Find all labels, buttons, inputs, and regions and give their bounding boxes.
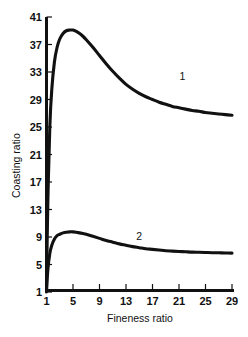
x-tick-label: 5 (70, 295, 76, 307)
y-tick-label: 13 (30, 204, 42, 216)
y-tick-label: 1 (36, 286, 42, 298)
x-axis-title: Fineness ratio (107, 312, 173, 324)
y-tick-label: 33 (30, 66, 42, 78)
y-tick-label: 5 (36, 259, 42, 271)
y-tick-label: 9 (36, 231, 42, 243)
x-tick-label: 17 (146, 295, 158, 307)
curve-label-1: 1 (179, 70, 185, 82)
y-tick-label: 37 (30, 39, 42, 51)
curve-label-2: 2 (136, 230, 142, 242)
y-tick-label: 21 (30, 149, 42, 161)
coasting-ratio-vs-fineness-ratio-chart: 1591317212529333741 1591317212529 12 Coa… (0, 0, 248, 337)
y-axis-title: Coasting ratio (10, 133, 22, 198)
x-tick-label: 25 (199, 295, 211, 307)
y-tick-label: 41 (30, 11, 42, 23)
chart-figure: 1591317212529333741 1591317212529 12 Coa… (0, 0, 248, 337)
x-tick-label: 21 (173, 295, 185, 307)
y-tick-label: 25 (30, 121, 42, 133)
y-tick-label: 29 (30, 94, 42, 106)
x-tick-label: 1 (43, 295, 49, 307)
x-tick-label: 13 (120, 295, 132, 307)
y-tick-label: 17 (30, 176, 42, 188)
x-tick-label: 29 (226, 295, 238, 307)
x-tick-label: 9 (96, 295, 102, 307)
